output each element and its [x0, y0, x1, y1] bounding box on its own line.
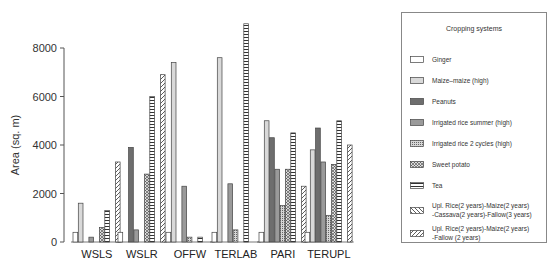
bar — [332, 164, 337, 242]
legend-item: Maize–maize (high) — [410, 76, 489, 85]
legend-swatch-icon — [410, 98, 424, 105]
legend-label: Upl. Rice(2 years)-Maize(2 years) -Fallo… — [432, 224, 529, 242]
bar — [198, 237, 203, 242]
legend-swatch-icon — [410, 161, 424, 168]
bar — [233, 230, 238, 242]
legend-swatch-icon — [410, 182, 424, 189]
x-tick-label: WSLS — [81, 248, 112, 260]
legend-item: Irrigated rice 2 cycles (high) — [410, 139, 512, 148]
legend: Cropping systems GingerMaize–maize (high… — [401, 12, 547, 243]
bar — [280, 206, 285, 242]
legend-label: Upl. Rice(2 years)-Maize(2 years) -Cassa… — [432, 201, 532, 219]
y-tick-label: 4000 — [33, 139, 57, 151]
y-tick-label: 0 — [51, 236, 57, 248]
x-tick-label: WSLR — [126, 248, 158, 260]
bar — [305, 232, 310, 242]
y-tick-label: 8000 — [33, 42, 57, 54]
bar — [310, 150, 315, 242]
bar — [217, 58, 222, 242]
bar — [212, 232, 217, 242]
x-tick-label: TERLAB — [214, 248, 257, 260]
bar — [244, 24, 249, 242]
legend-item: Peanuts — [410, 97, 456, 106]
bar — [182, 186, 187, 242]
y-tick-label: 6000 — [33, 91, 57, 103]
legend-item: Ginger — [410, 55, 452, 64]
bar — [286, 169, 291, 242]
bar — [316, 128, 321, 242]
x-tick-label: PARI — [270, 248, 295, 260]
bar — [134, 230, 139, 242]
legend-swatch-icon — [410, 140, 424, 147]
bar — [337, 121, 342, 242]
bar — [105, 210, 110, 242]
legend-swatch-icon — [410, 207, 424, 214]
bar — [115, 162, 120, 242]
legend-item: Irrigated rice summer (high) — [410, 118, 512, 127]
bar — [78, 203, 83, 242]
x-tick-label: OFFW — [174, 248, 207, 260]
y-axis-label: Area (sq. m) — [9, 115, 21, 176]
legend-swatch-icon — [410, 77, 424, 84]
bar — [166, 232, 171, 242]
bar — [347, 145, 352, 242]
bar — [89, 237, 94, 242]
bar — [291, 133, 296, 242]
bar — [321, 162, 326, 242]
legend-swatch-icon — [410, 230, 424, 237]
bar — [129, 147, 134, 242]
legend-item: Upl. Rice(2 years)-Maize(2 years) -Cassa… — [410, 201, 532, 219]
bars — [73, 24, 352, 242]
bar — [150, 97, 155, 243]
legend-label: Irrigated rice summer (high) — [432, 118, 512, 127]
legend-swatch-icon — [410, 56, 424, 63]
bar — [100, 227, 105, 242]
legend-item: Tea — [410, 181, 442, 190]
legend-title: Cropping systems — [402, 25, 546, 32]
bar — [259, 232, 264, 242]
bar — [326, 215, 331, 242]
legend-item: Sweet potato — [410, 160, 470, 169]
legend-label: Ginger — [432, 55, 452, 64]
bar — [187, 237, 192, 242]
legend-swatch-icon — [410, 119, 424, 126]
bar — [73, 232, 78, 242]
bar — [228, 184, 233, 242]
bar — [264, 121, 269, 242]
y-tick-label: 2000 — [33, 188, 57, 200]
legend-label: Maize–maize (high) — [432, 76, 489, 85]
legend-label: Irrigated rice 2 cycles (high) — [432, 139, 512, 148]
bar — [145, 174, 150, 242]
bar — [270, 138, 275, 242]
x-tick-label: TERUPL — [307, 248, 350, 260]
bar — [275, 169, 280, 242]
bar — [171, 63, 176, 242]
legend-item: Upl. Rice(2 years)-Maize(2 years) -Fallo… — [410, 224, 529, 242]
legend-label: Tea — [432, 181, 442, 190]
bar-chart: 02000400060008000Area (sq. m)WSLSWSLROFF… — [0, 0, 400, 267]
legend-label: Sweet potato — [432, 160, 470, 169]
bar — [160, 75, 165, 242]
bar — [118, 232, 123, 242]
legend-label: Peanuts — [432, 97, 456, 106]
